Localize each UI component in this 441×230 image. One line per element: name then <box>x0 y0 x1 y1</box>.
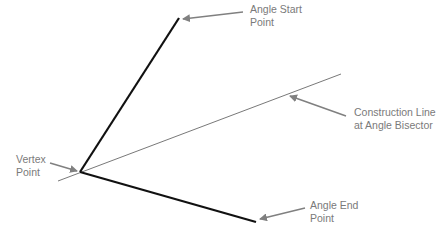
angle-start-callout-arrow <box>183 12 243 19</box>
angle-start-ray <box>80 18 179 172</box>
construction-line <box>58 74 341 181</box>
angle-start-label: Angle Start Point <box>250 3 302 28</box>
construction-line-callout-arrow <box>290 96 346 116</box>
vertex-callout-arrow <box>50 163 77 171</box>
angle-end-callout-arrow <box>260 208 305 219</box>
angle-end-ray <box>80 172 256 222</box>
construction-line-label: Construction Line at Angle Bisector <box>354 106 436 131</box>
angle-end-label: Angle End Point <box>310 199 358 224</box>
vertex-label: Vertex Point <box>16 153 46 178</box>
